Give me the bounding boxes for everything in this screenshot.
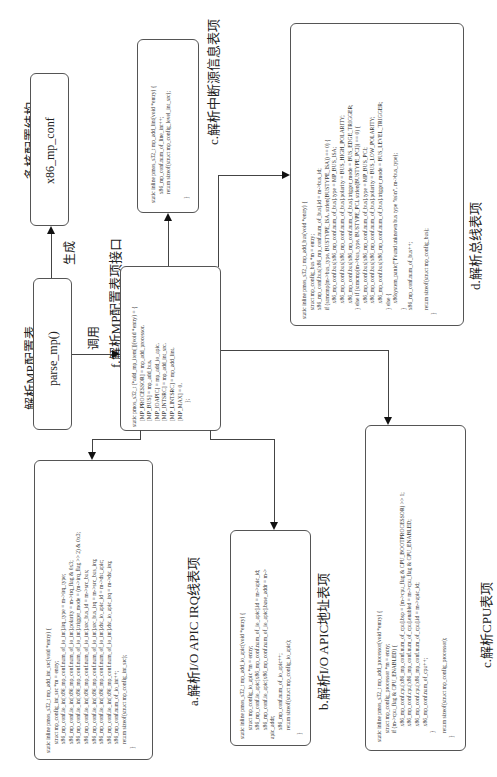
- a-ioapic-irq-label: a.解析I/O APIC IRQ线表项: [183, 557, 202, 706]
- parse-mp-text: parse_mp(): [46, 331, 61, 386]
- a-ioapic-irq-box: static inline pmos_s32_t mp_add_int_src(…: [34, 460, 153, 760]
- f-to-a-arrowhead-icon: [88, 452, 96, 460]
- f-to-d-arrowhead-icon: [282, 171, 290, 179]
- f-to-e-connector: [388, 350, 389, 417]
- generate-connector: [51, 234, 52, 278]
- f-right-trunk: [221, 350, 388, 351]
- b-code: static inline pmos_s32_t mp_add_io_apic(…: [239, 569, 304, 739]
- f-code: static pmos_s32_t (*add_mp_item[])(void …: [131, 306, 192, 427]
- f-to-d-connector-h: [218, 175, 282, 176]
- f-to-c-arrowhead-icon: [164, 213, 172, 221]
- generate-label: 生成: [60, 241, 78, 265]
- e-code: static inline pmos_s32_t mp_add_processo…: [376, 492, 456, 742]
- c-interrupt-source-label: c.解析中断源信息表项: [203, 19, 222, 145]
- e-cpu-box: static inline pmos_s32_t mp_add_processo…: [365, 425, 466, 751]
- x86-mp-conf-text: x86_mp_conf: [43, 117, 58, 184]
- call-connector: [72, 354, 112, 355]
- f-mp-item-table-box: static pmos_s32_t (*add_mp_item[])(void …: [120, 266, 221, 431]
- f-to-d-connector-v: [218, 175, 219, 267]
- call-label: 调用: [84, 326, 102, 350]
- f-to-b-connector-h: [210, 439, 274, 440]
- e-cpu-label: c.解析CPU表项: [476, 582, 495, 668]
- d-bus-label: d.解析总线表项: [465, 202, 484, 290]
- b-ioapic-addr-label: b.解析I/O APIC地址表项: [313, 573, 332, 710]
- d-code: static inline pmos_s32_t mp_add_bus(void…: [301, 102, 438, 319]
- b-ioapic-addr-box: static inline pmos_s32_t mp_add_io_apic(…: [230, 530, 311, 746]
- f-to-b-arrowhead-icon: [270, 522, 278, 530]
- f-bottom-stem-a: [140, 430, 141, 440]
- f-to-a-connector-h: [92, 439, 140, 440]
- f-bottom-stem-b: [210, 430, 211, 440]
- d-bus-box: static inline pmos_s32_t mp_add_bus(void…: [290, 23, 464, 326]
- c-interrupt-source-box: static inline pmos_s32_t mp_add_lint(voi…: [137, 39, 199, 213]
- f-to-c-connector: [168, 221, 169, 266]
- f-to-a-connector-v: [92, 439, 93, 452]
- f-to-e-arrowhead-icon: [384, 417, 392, 425]
- a-code: static inline pmos_s32_t mp_add_int_src(…: [45, 532, 136, 753]
- x86-mp-conf-node: x86_mp_conf: [30, 73, 69, 226]
- call-arrowhead-icon: [112, 350, 120, 358]
- generate-arrowhead-icon: [47, 226, 55, 234]
- parse-mp-node: parse_mp(): [33, 278, 72, 430]
- c-interrupt-code: static inline pmos_s32_t mp_add_lint(voi…: [150, 86, 190, 204]
- f-to-b-connector-v: [274, 439, 275, 522]
